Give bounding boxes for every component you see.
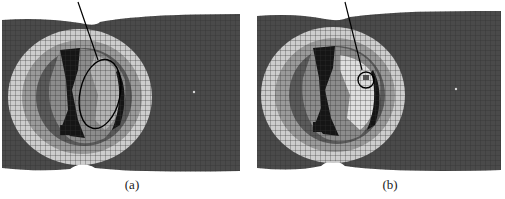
caption-a: (a) (112, 177, 152, 193)
figure-panel-b: (b) (255, 0, 505, 199)
fe-mesh-plot-b (255, 0, 505, 199)
fe-mesh-plot-a (0, 0, 250, 199)
figure-panel-a: (a) (0, 0, 250, 199)
caption-b: (b) (370, 177, 410, 193)
